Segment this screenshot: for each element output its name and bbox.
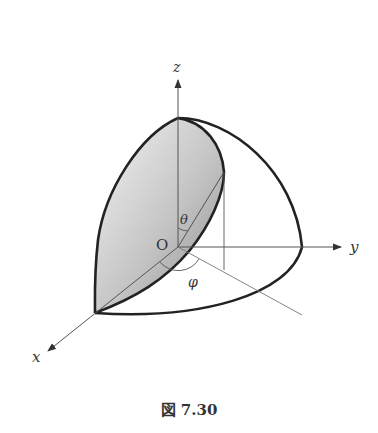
spherical-coordinates-diagram: z y x O θ φ — [0, 0, 378, 433]
origin-label: O — [156, 236, 168, 254]
phi-label: φ — [188, 274, 198, 290]
figure-caption: 図 7.30 — [0, 398, 378, 419]
shaded-lune — [95, 118, 224, 313]
y-axis-label: y — [349, 238, 359, 256]
z-axis-label: z — [172, 59, 181, 75]
theta-label: θ — [180, 212, 188, 227]
x-axis-label: x — [32, 348, 41, 366]
